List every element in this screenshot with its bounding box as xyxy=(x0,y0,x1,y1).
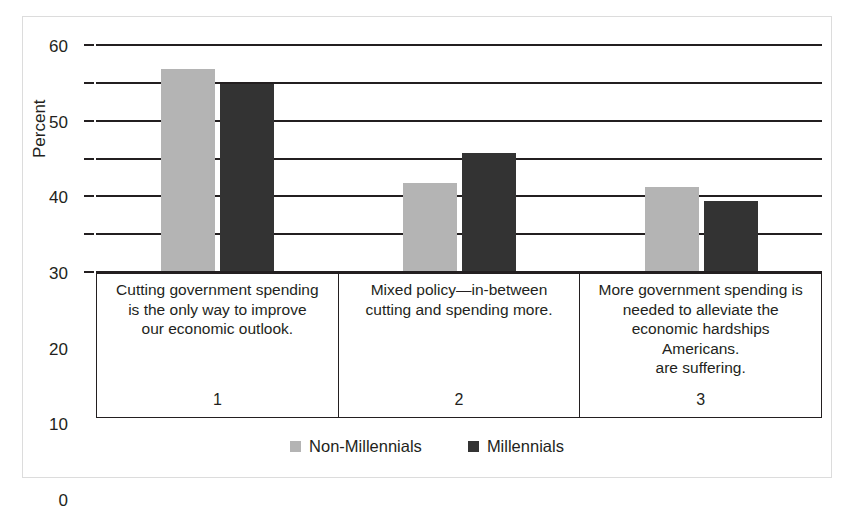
bar-millennials-group-3 xyxy=(704,201,758,271)
category-description-line: our economic outlook. xyxy=(105,319,330,339)
y-tick-label-30: 30 xyxy=(49,265,68,282)
category-description-line: economic hardships xyxy=(588,319,813,339)
category-cell-3: More government spending isneeded to all… xyxy=(580,274,821,417)
category-label-boxes: Cutting government spendingis the only w… xyxy=(96,273,822,418)
bar-millennials-group-2 xyxy=(462,153,516,271)
chart-legend: Non-MillennialsMillennials xyxy=(0,437,854,456)
bar-non-millennials-group-1 xyxy=(161,69,215,271)
category-description-line: Mixed policy—in-between xyxy=(347,280,572,300)
legend-entry-millennials[interactable]: Millennials xyxy=(468,437,564,456)
category-description-line: More government spending is xyxy=(588,280,813,300)
category-description-line: Cutting government spending xyxy=(105,280,330,300)
category-number-3: 3 xyxy=(580,391,821,409)
legend-entry-non-millennials[interactable]: Non-Millennials xyxy=(290,437,422,456)
legend-label: Non-Millennials xyxy=(309,437,422,456)
category-cell-2: Mixed policy—in-betweencutting and spend… xyxy=(339,274,581,417)
y-tick-label-0: 0 xyxy=(59,492,68,509)
legend-label: Millennials xyxy=(487,437,564,456)
y-tick-mark-20: 20 xyxy=(84,195,94,197)
gridline-60 xyxy=(96,44,822,46)
bar-non-millennials-group-3 xyxy=(645,187,699,271)
y-tick-mark-40: 40 xyxy=(84,120,94,122)
category-cell-1: Cutting government spendingis the only w… xyxy=(97,274,339,417)
bar-millennials-group-1 xyxy=(220,84,274,271)
category-description-2: Mixed policy—in-betweencutting and spend… xyxy=(347,280,572,319)
y-tick-mark-60: 60 xyxy=(84,44,94,46)
category-description-line: cutting and spending more. xyxy=(347,300,572,320)
category-number-1: 1 xyxy=(97,391,338,409)
category-description-line: needed to alleviate the xyxy=(588,300,813,320)
category-description-line: Americans. xyxy=(588,339,813,359)
y-tick-label-40: 40 xyxy=(49,189,68,206)
category-description-1: Cutting government spendingis the only w… xyxy=(105,280,330,339)
y-tick-mark-50: 50 xyxy=(84,82,94,84)
y-axis-title: Percent xyxy=(30,99,50,158)
category-description-3: More government spending isneeded to all… xyxy=(588,280,813,378)
category-number-2: 2 xyxy=(339,391,580,409)
y-tick-mark-0: 0 xyxy=(84,271,94,273)
plot-area: 0102030405060 xyxy=(96,44,822,271)
y-tick-mark-30: 30 xyxy=(84,158,94,160)
y-tick-mark-10: 10 xyxy=(84,233,94,235)
legend-swatch-icon xyxy=(468,441,479,452)
category-description-line: is the only way to improve xyxy=(105,300,330,320)
legend-swatch-icon xyxy=(290,441,301,452)
y-tick-label-60: 60 xyxy=(49,38,68,55)
bar-non-millennials-group-2 xyxy=(403,183,457,271)
y-tick-label-10: 10 xyxy=(49,416,68,433)
y-tick-label-20: 20 xyxy=(49,340,68,357)
category-description-line: are suffering. xyxy=(588,358,813,378)
y-tick-label-50: 50 xyxy=(49,113,68,130)
